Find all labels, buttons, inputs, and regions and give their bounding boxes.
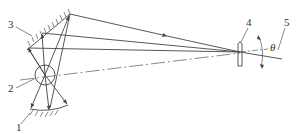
leader-1 <box>21 113 30 124</box>
angle-theta-indicator <box>257 35 264 69</box>
leader-4 <box>241 28 248 42</box>
optical-diagram: 3 2 1 4 5 θ <box>0 0 299 134</box>
label-5: 5 <box>284 16 290 28</box>
label-theta: θ <box>270 41 276 53</box>
label-1: 1 <box>16 121 22 133</box>
label-2: 2 <box>8 82 14 94</box>
leader-3 <box>16 27 32 36</box>
label-3: 3 <box>8 18 14 30</box>
leader-5 <box>278 28 285 50</box>
label-4: 4 <box>246 16 252 28</box>
lens-4 <box>238 42 242 66</box>
optical-axis <box>20 53 240 80</box>
axis-extension <box>240 49 268 52</box>
